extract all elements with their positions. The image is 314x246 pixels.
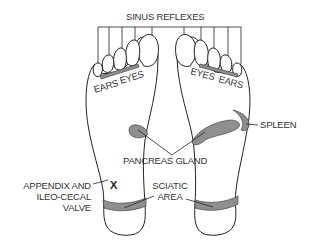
pancreas-gland-label: PANCREAS GLAND [123,155,207,166]
sciatic-label-line2: AREA [157,191,183,202]
left-toe-5 [93,63,102,76]
right-toe-2 [194,40,208,66]
appendix-label-line1: APPENDIX AND [23,180,91,191]
sciatic-label-line1: SCIATIC [152,180,188,191]
sinus-reflexes-label: SINUS REFLEXES [126,11,205,22]
left-toe-3 [114,48,127,70]
spleen-label: SPLEEN [260,119,297,130]
left-big-toe [138,34,159,66]
right-big-toe [176,34,197,66]
left-toe-4 [102,55,114,72]
left-foot: X [86,34,158,235]
appendix-label-line3: VALVE [63,202,91,213]
right-foot [176,34,250,235]
appendix-marker: X [110,179,118,191]
appendix-label-line2: ILEO-CECAL [37,191,92,202]
left-toe-2 [126,40,140,66]
foot-reflexology-diagram: X SINUS REFLEXES EARS EYES EYES EARS SPL… [0,0,314,246]
